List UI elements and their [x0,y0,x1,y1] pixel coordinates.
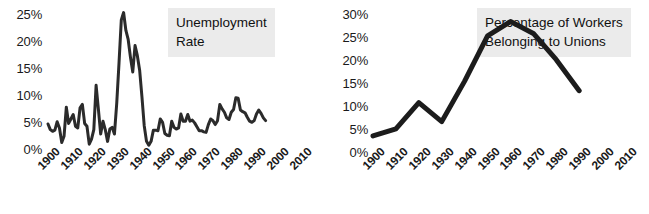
chart-panel-unemployment: 25% 20% 15% 10% 5% 0% Unemployment Rate … [0,0,325,214]
union-data-line [373,22,579,136]
y-axis-label-20: 20% [0,35,42,48]
y-axis-label-5: 5% [325,123,368,136]
y-axis-label-25: 25% [0,8,42,21]
y-axis-label-10: 10% [325,100,368,113]
unemployment-data-line [48,13,266,146]
union-line-chart [373,12,625,155]
y-axis-label-15: 15% [0,62,42,75]
y-axis-label-0: 0% [0,143,42,156]
y-axis-label-15: 15% [325,77,368,90]
chart-panel-union-membership: 30% 25% 20% 15% 10% 5% 0% Percentage of … [325,0,649,214]
unemployment-line-chart [48,12,300,152]
plot-area-union-membership [373,12,625,155]
y-axis-label-5: 5% [0,116,42,129]
y-axis-label-25: 25% [325,31,368,44]
x-axis-ticks-unemployment: 1900191019201930194019501960197019801990… [0,160,325,212]
figure-root: 25% 20% 15% 10% 5% 0% Unemployment Rate … [0,0,649,214]
plot-area-unemployment [48,12,300,152]
y-axis-label-20: 20% [325,54,368,67]
x-axis-ticks-union-membership: 1900191019201930194019501960197019801990… [325,160,649,212]
y-axis-label-30: 30% [325,8,368,21]
y-axis-label-10: 10% [0,89,42,102]
y-axis-label-0: 0% [325,146,368,159]
